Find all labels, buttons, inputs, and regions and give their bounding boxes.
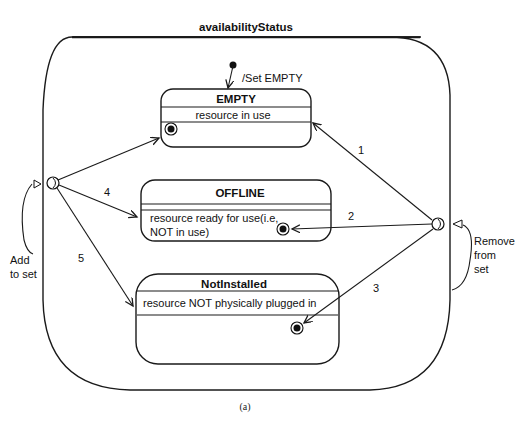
- entry-label-line1: Add: [10, 254, 30, 266]
- transition-to-empty-arrow[interactable]: [58, 138, 159, 180]
- initial-transition-arrow: [228, 66, 233, 88]
- superstate-title: availabilityStatus: [199, 21, 293, 33]
- exit-label-line3: set: [474, 263, 489, 275]
- transition-4-arrow[interactable]: [59, 185, 137, 217]
- final-state-icon: [277, 223, 289, 235]
- transition-1-label: 1: [358, 144, 364, 156]
- state-not-installed-description: resource NOT physically plugged in: [143, 297, 316, 309]
- transition-5-label: 5: [78, 252, 84, 264]
- state-offline-description-line2: NOT in use): [150, 226, 209, 238]
- transition-2-arrow[interactable]: [292, 224, 432, 229]
- exit-marker-triangle-icon: [453, 220, 462, 228]
- entry-bracket: [22, 184, 33, 254]
- state-diagram: availabilityStatus /Set EMPTY EMPTY reso…: [0, 0, 524, 423]
- initial-transition-label: /Set EMPTY: [242, 72, 303, 84]
- state-empty-name: EMPTY: [216, 93, 256, 105]
- transition-5-arrow[interactable]: [57, 188, 133, 306]
- figure-caption: (a): [239, 401, 250, 413]
- exit-bracket: [452, 225, 471, 290]
- transition-2-label: 2: [348, 210, 354, 222]
- exit-label-line2: from: [474, 249, 496, 261]
- final-state-icon: [291, 322, 303, 334]
- state-not-installed-name: NotInstalled: [201, 278, 267, 290]
- entry-point-icon[interactable]: [47, 177, 59, 189]
- transition-3-label: 3: [373, 282, 379, 294]
- state-empty-description: resource in use: [195, 109, 270, 121]
- state-offline-name: OFFLINE: [215, 187, 265, 199]
- final-state-icon: [165, 123, 177, 135]
- entry-marker-triangle-icon: [34, 180, 41, 188]
- entry-label-line2: to set: [10, 268, 37, 280]
- state-offline-description-line1: resource ready for use(i.e,: [150, 212, 278, 224]
- exit-point-icon[interactable]: [432, 218, 444, 230]
- transition-4-label: 4: [104, 186, 110, 198]
- exit-label-line1: Remove: [474, 235, 515, 247]
- transition-3-arrow[interactable]: [304, 229, 433, 323]
